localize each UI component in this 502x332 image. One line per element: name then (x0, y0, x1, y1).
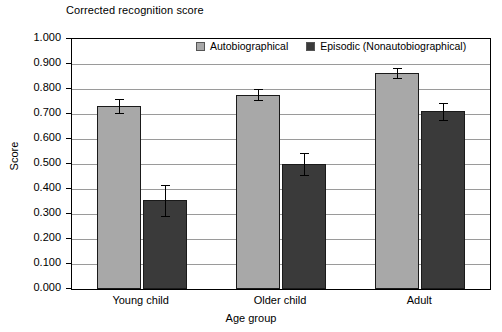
bar-chart-figure: Corrected recognition score Score Age gr… (0, 0, 502, 332)
error-bar-cap-bottom (254, 100, 263, 101)
error-bar-cap-top (254, 89, 263, 90)
x-axis-title: Age group (0, 312, 502, 324)
legend-label: Episodic (Nonautobiographical) (320, 40, 466, 52)
y-tick-mark (66, 213, 71, 214)
y-tick-label: 1.000 (0, 31, 61, 43)
x-category-label: Older child (210, 294, 350, 306)
y-tick-mark (66, 288, 71, 289)
legend-entry: Autobiographical (196, 40, 288, 52)
error-bar-line (165, 185, 166, 216)
bar (282, 164, 326, 289)
error-bar-cap-top (393, 68, 402, 69)
x-category-label: Young child (71, 294, 211, 306)
error-bar-cap-bottom (393, 78, 402, 79)
y-tick-mark (66, 38, 71, 39)
error-bar-line (304, 153, 305, 176)
error-bar-cap-bottom (161, 216, 170, 217)
legend-entry: Episodic (Nonautobiographical) (306, 40, 466, 52)
gridline (72, 89, 490, 90)
y-tick-label: 0.100 (0, 256, 61, 268)
plot-area (71, 38, 491, 290)
y-tick-mark (66, 113, 71, 114)
y-tick-label: 0.000 (0, 281, 61, 293)
legend-swatch-icon (306, 42, 315, 51)
y-tick-mark (66, 263, 71, 264)
y-tick-mark (66, 238, 71, 239)
y-tick-label: 0.400 (0, 181, 61, 193)
legend-label: Autobiographical (210, 40, 288, 52)
y-tick-label: 0.800 (0, 81, 61, 93)
chart-title: Corrected recognition score (66, 4, 204, 16)
error-bar-cap-top (115, 99, 124, 100)
legend-swatch-icon (196, 42, 205, 51)
y-tick-mark (66, 63, 71, 64)
y-tick-mark (66, 163, 71, 164)
error-bar-cap-top (161, 185, 170, 186)
y-tick-mark (66, 138, 71, 139)
y-tick-label: 0.500 (0, 156, 61, 168)
bar (421, 111, 465, 289)
y-tick-label: 0.200 (0, 231, 61, 243)
y-tick-mark (66, 88, 71, 89)
bar (375, 73, 419, 290)
bar (236, 95, 280, 289)
bar (97, 106, 141, 289)
y-tick-label: 0.300 (0, 206, 61, 218)
error-bar-line (258, 89, 259, 100)
error-bar-cap-bottom (115, 113, 124, 114)
error-bar-cap-bottom (300, 175, 309, 176)
chart-legend: AutobiographicalEpisodic (Nonautobiograp… (193, 39, 469, 53)
error-bar-line (443, 103, 444, 120)
y-tick-label: 0.900 (0, 56, 61, 68)
error-bar-line (397, 68, 398, 78)
error-bar-line (119, 99, 120, 113)
gridline (72, 64, 490, 65)
y-tick-label: 0.700 (0, 106, 61, 118)
error-bar-cap-top (300, 153, 309, 154)
y-tick-mark (66, 188, 71, 189)
error-bar-cap-bottom (439, 120, 448, 121)
y-tick-label: 0.600 (0, 131, 61, 143)
error-bar-cap-top (439, 103, 448, 104)
x-category-label: Adult (349, 294, 489, 306)
